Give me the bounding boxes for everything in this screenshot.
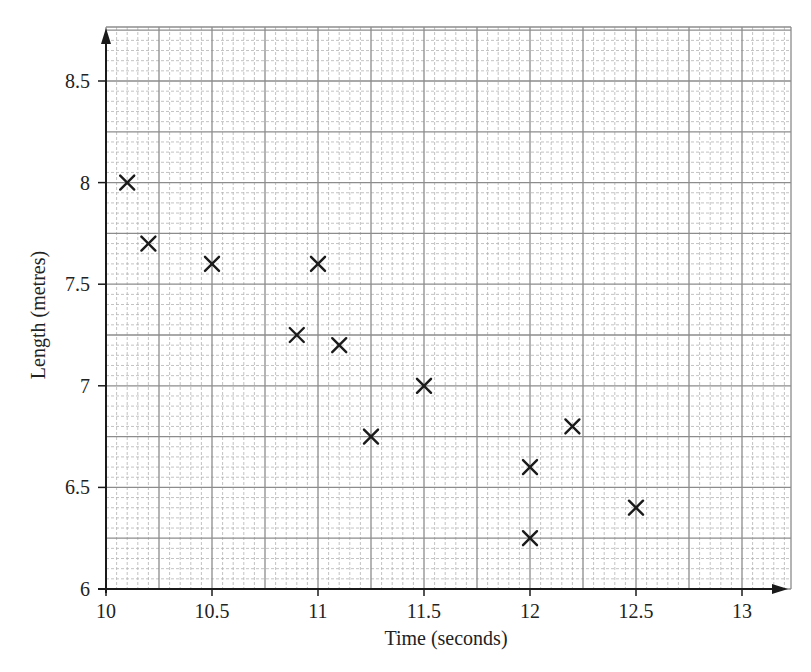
- y-tick-label: 6.5: [65, 476, 90, 498]
- x-tick-label: 13: [732, 600, 752, 622]
- x-axis-arrow-icon: [772, 584, 788, 594]
- x-tick-label: 12.5: [619, 600, 654, 622]
- x-tick-label: 11: [308, 600, 327, 622]
- y-axis-ticks: 66.577.588.5: [65, 70, 106, 600]
- x-tick-label: 10.5: [195, 600, 230, 622]
- x-axis-label: Time (seconds): [384, 627, 507, 650]
- y-tick-label: 6: [80, 578, 90, 600]
- y-tick-label: 8: [80, 172, 90, 194]
- chart-canvas: 1010.51111.51212.513 66.577.588.5 Time (…: [0, 0, 811, 672]
- y-tick-label: 7: [80, 375, 90, 397]
- x-tick-label: 12: [520, 600, 540, 622]
- scatter-chart: 1010.51111.51212.513 66.577.588.5 Time (…: [0, 0, 811, 672]
- x-tick-label: 11.5: [407, 600, 441, 622]
- minor-gridlines: [106, 27, 791, 589]
- y-axis-label: Length (metres): [27, 251, 50, 379]
- y-tick-label: 8.5: [65, 70, 90, 92]
- x-axis-ticks: 1010.51111.51212.513: [96, 589, 752, 622]
- y-tick-label: 7.5: [65, 273, 90, 295]
- x-tick-label: 10: [96, 600, 116, 622]
- data-point-cross-icon: [332, 338, 346, 352]
